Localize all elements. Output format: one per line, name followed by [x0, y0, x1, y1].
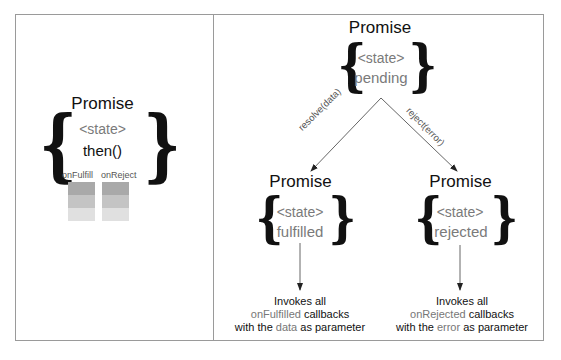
caption-line: Invokes all [220, 295, 380, 308]
state-label: <state> [266, 204, 334, 220]
state-label: <state> [348, 50, 414, 66]
caption-text: as parameter [297, 321, 365, 333]
state-value: rejected [424, 223, 498, 240]
caption-text: callbacks [466, 308, 514, 320]
caption-line: with the error as parameter [382, 321, 542, 334]
param-name: error [437, 321, 460, 333]
caption-text: with the [235, 321, 276, 333]
caption-line: onFulfilled callbacks [220, 308, 380, 321]
caption-line: onRejected callbacks [382, 308, 542, 321]
caption-text: as parameter [460, 321, 528, 333]
rejected-caption: Invokes all onRejected callbacks with th… [382, 295, 542, 334]
caption-text: with the [396, 321, 437, 333]
state-label: <state> [426, 204, 494, 220]
state-value: fulfilled [264, 223, 336, 240]
param-name: data [276, 321, 297, 333]
state-value: pending [345, 69, 417, 86]
callback-name: onFulfilled [251, 308, 301, 320]
caption-text: callbacks [301, 308, 349, 320]
caption-line: Invokes all [382, 295, 542, 308]
fulfilled-caption: Invokes all onFulfilled callbacks with t… [220, 295, 380, 334]
callback-name: onRejected [410, 308, 466, 320]
caption-line: with the data as parameter [220, 321, 380, 334]
